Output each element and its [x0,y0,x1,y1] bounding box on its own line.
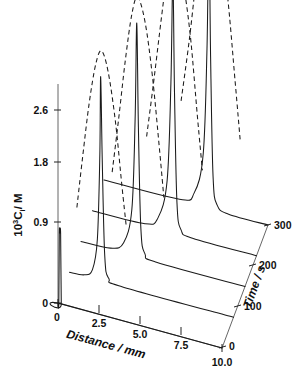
curve-solid-t75 [70,77,234,318]
svg-text:103Ci/ M: 103Ci/ M [11,193,27,236]
x-ticklabel-10-0: 10.0 [212,356,233,368]
x-ticklabel-2-5: 2.5 [92,317,107,329]
y-ticklabel-2-6: 2.6 [33,104,48,116]
y-axis-ticks [54,110,61,303]
data-curves-group [50,0,268,348]
y-axis-ticklabels: 2.6 1.8 0.9 0 [33,104,48,309]
x-ticklabel-0: 0 [54,311,60,323]
y-axis-title-base: 10 [12,224,24,237]
x-ticklabel-7-5: 7.5 [174,339,189,351]
y-ticklabel-1-8: 1.8 [33,156,48,168]
y-ticklabel-0: 0 [42,297,48,309]
y-axis-title-symbol: C [12,211,24,219]
z-ticklabel-0: 0 [229,340,235,352]
y-ticklabel-0-9: 0.9 [33,216,48,228]
waterfall-chart: 2.6 1.8 0.9 0 103Ci/ M 0 2.5 5.0 7.5 10.… [0,0,305,373]
axes-frame [58,84,268,348]
x-ticklabel-5-0: 5.0 [133,328,148,340]
y-axis-title-unit: / M [12,193,24,209]
figure-root: 2.6 1.8 0.9 0 103Ci/ M 0 2.5 5.0 7.5 10.… [0,0,305,373]
y-axis-title: 103Ci/ M [11,193,27,236]
z-ticklabel-300: 300 [274,219,292,231]
